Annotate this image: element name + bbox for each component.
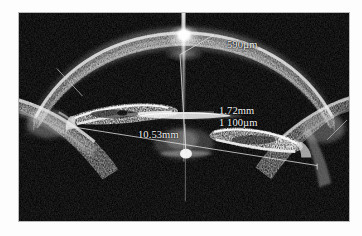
measurement-label-corneal-thickness: 590µm [227, 39, 257, 51]
ubm-image-page: 590µm 1.72mm 1 100µm 10.53mm [0, 0, 362, 236]
ultrasound-tissue-render [19, 13, 349, 221]
measurement-label-lens-vault: 1 100µm [219, 117, 258, 129]
measurement-label-anterior-chamber-depth: 1.72mm [219, 105, 254, 117]
ultrasound-image-field [19, 13, 349, 221]
measurement-label-sulcus-to-sulcus: 10.53mm [138, 129, 179, 141]
ultrasound-scan-frame: 590µm 1.72mm 1 100µm 10.53mm [18, 12, 350, 222]
